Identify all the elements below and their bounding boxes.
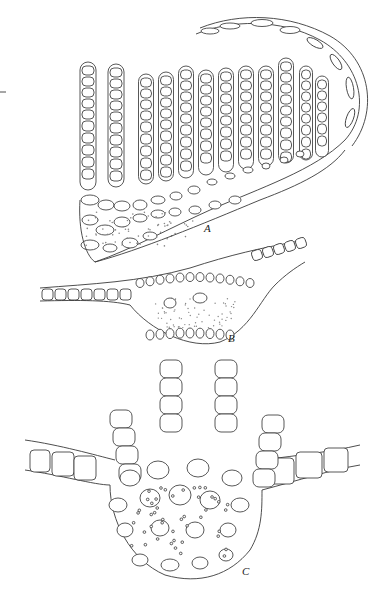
panel-a-drawing [80, 18, 368, 262]
panel-c-drawing [25, 360, 360, 579]
panel-label-c: C [242, 565, 250, 577]
figure-canvas: A B C [0, 0, 382, 593]
panel-b-drawing [40, 237, 307, 344]
panel-label-a: A [203, 222, 211, 234]
panel-label-b: B [228, 332, 235, 344]
